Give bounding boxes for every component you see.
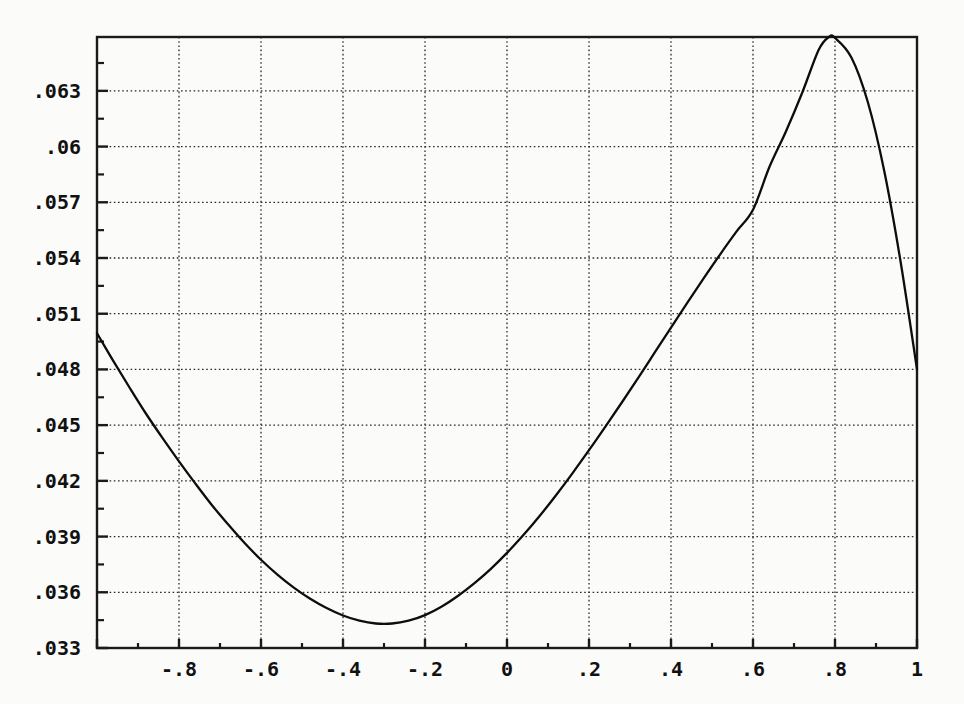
- y-tick-label: .033: [33, 636, 81, 660]
- x-tick-label: 1: [911, 657, 923, 681]
- x-axis-tick-labels: -.8-.6-.4-.20.2.4.6.81: [161, 657, 923, 681]
- y-tick-label: .057: [33, 190, 81, 214]
- data-curve-layer: [97, 35, 917, 623]
- x-tick-label: -.8: [161, 657, 197, 681]
- grid-layer: [97, 37, 917, 648]
- x-tick-label: -.6: [243, 657, 279, 681]
- x-tick-label: -.4: [325, 657, 361, 681]
- line-chart: .033.036.039.042.045.048.051.054.057.06.…: [0, 0, 964, 704]
- x-tick-label: .6: [741, 657, 765, 681]
- chart-figure: .033.036.039.042.045.048.051.054.057.06.…: [0, 0, 964, 704]
- x-tick-label: -.2: [407, 657, 443, 681]
- y-tick-label: .045: [33, 413, 81, 437]
- plot-frame: [97, 37, 917, 648]
- x-tick-label: .8: [823, 657, 847, 681]
- y-tick-label: .063: [33, 79, 81, 103]
- data-curve-line: [97, 35, 917, 623]
- y-axis-tick-labels: .033.036.039.042.045.048.051.054.057.06.…: [33, 79, 81, 660]
- y-tick-label: .039: [33, 525, 81, 549]
- y-tick-label: .048: [33, 357, 81, 381]
- y-tick-label: .036: [33, 580, 81, 604]
- y-tick-label: .042: [33, 469, 81, 493]
- x-tick-label: .2: [577, 657, 601, 681]
- y-tick-label: .054: [33, 246, 81, 270]
- x-tick-label: 0: [501, 657, 513, 681]
- y-tick-label: .051: [33, 302, 81, 326]
- x-tick-label: .4: [659, 657, 683, 681]
- y-tick-label: .06: [45, 135, 81, 159]
